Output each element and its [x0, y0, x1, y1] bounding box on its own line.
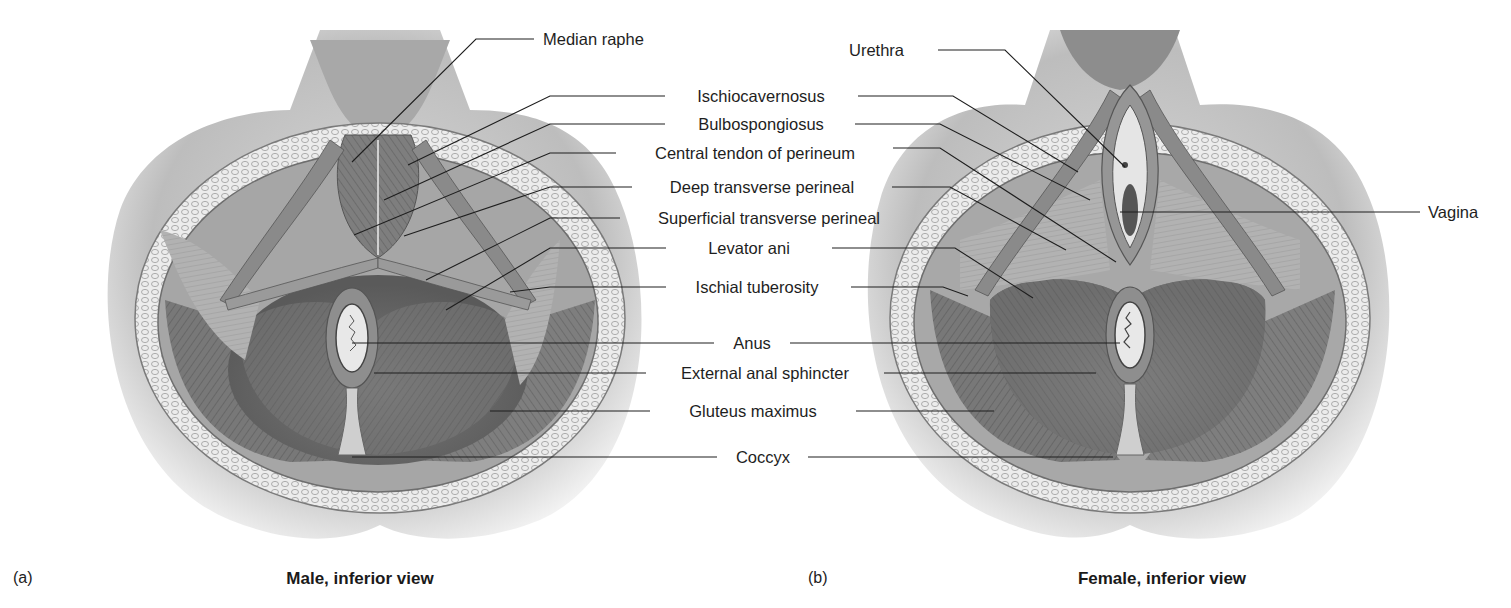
- label-urethra: Urethra: [849, 40, 904, 60]
- label-vagina: Vagina: [1428, 202, 1478, 222]
- label-ischiocavernosus: Ischiocavernosus: [697, 86, 824, 106]
- female-illustration: [868, 30, 1390, 539]
- label-central-tendon: Central tendon of perineum: [655, 143, 855, 163]
- male-illustration: [108, 30, 642, 539]
- label-levator-ani: Levator ani: [708, 238, 790, 258]
- label-external-anal-sphincter: External anal sphincter: [681, 363, 849, 383]
- label-gluteus-maximus: Gluteus maximus: [689, 401, 816, 421]
- label-deep-transverse-perineal: Deep transverse perineal: [670, 177, 854, 197]
- label-bulbospongiosus: Bulbospongiosus: [698, 114, 824, 134]
- panel-letter-b: (b): [808, 569, 828, 587]
- label-anus: Anus: [733, 333, 771, 353]
- caption-male: Male, inferior view: [286, 569, 433, 589]
- label-median-raphe: Median raphe: [543, 29, 644, 49]
- panel-letter-a: (a): [13, 569, 33, 587]
- label-ischial-tuberosity: Ischial tuberosity: [696, 277, 819, 297]
- label-coccyx: Coccyx: [736, 447, 790, 467]
- caption-female: Female, inferior view: [1078, 569, 1246, 589]
- label-superficial-transverse-perineal: Superficial transverse perineal: [658, 208, 880, 228]
